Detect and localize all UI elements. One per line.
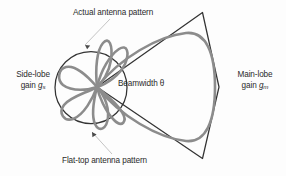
actual-back-lobe-upper — [59, 67, 97, 90]
side-lobe-label-line2: gain — [21, 81, 36, 90]
label-flat-top-antenna-pattern: Flat-top antenna pattern — [62, 156, 147, 167]
label-main-lobe-gain: Main-lobe gain gm — [228, 70, 282, 92]
label-beamwidth: Beamwidth θ — [118, 79, 164, 90]
side-lobe-gain-subscript: s — [42, 83, 45, 90]
antenna-pattern-figure: Actual antenna pattern Side-lobe gain gs… — [0, 0, 286, 176]
beamwidth-label-text: Beamwidth — [118, 79, 158, 88]
side-lobe-label-line1: Side-lobe — [16, 70, 50, 79]
beamwidth-theta-symbol: θ — [160, 79, 164, 88]
main-lobe-label-line2: gain — [242, 81, 257, 90]
label-actual-antenna-pattern: Actual antenna pattern — [73, 8, 153, 19]
main-lobe-gain-subscript: m — [263, 83, 268, 90]
label-side-lobe-gain: Side-lobe gain gs — [8, 70, 58, 92]
arrowhead-actual-pattern — [85, 45, 90, 49]
main-lobe-label-line1: Main-lobe — [237, 70, 272, 79]
